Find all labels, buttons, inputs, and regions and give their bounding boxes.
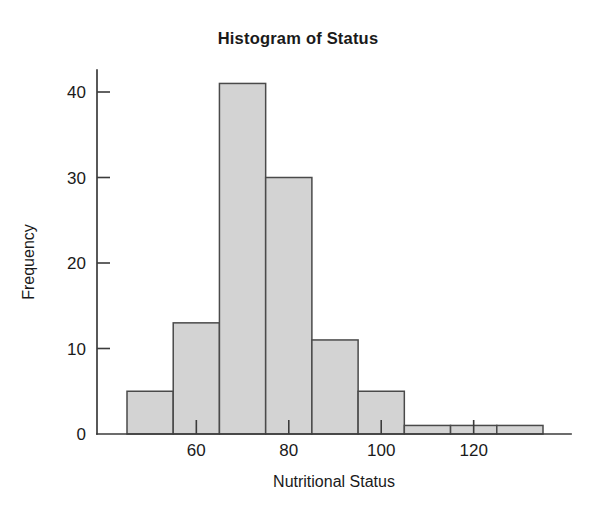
histogram-bar	[219, 83, 265, 434]
x-tick-label: 120	[459, 441, 487, 460]
y-tick-label: 20	[67, 254, 86, 273]
x-tick-label: 60	[187, 441, 206, 460]
histogram-bar	[312, 340, 358, 434]
y-tick-label: 0	[77, 425, 86, 444]
y-axis-label: Frequency	[20, 224, 37, 300]
x-axis-label: Nutritional Status	[273, 473, 395, 490]
x-tick-label: 80	[279, 441, 298, 460]
y-tick-label: 30	[67, 169, 86, 188]
histogram-bar	[173, 323, 219, 434]
histogram-bar	[404, 425, 450, 434]
y-tick-label: 10	[67, 340, 86, 359]
histogram-bar	[497, 425, 543, 434]
histogram-figure: Histogram of Status 010203040 Frequency …	[0, 0, 597, 517]
histogram-bar	[266, 178, 312, 435]
x-tick-label: 100	[367, 441, 395, 460]
chart-title: Histogram of Status	[218, 29, 379, 47]
histogram-bar	[127, 391, 173, 434]
histogram-chart-canvas: Histogram of Status 010203040 Frequency …	[0, 0, 597, 517]
y-tick-label: 40	[67, 83, 86, 102]
